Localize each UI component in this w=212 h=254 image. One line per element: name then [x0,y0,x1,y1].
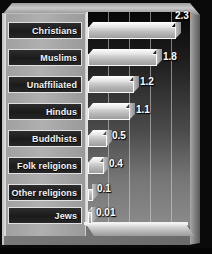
category-label-text: Christians [32,26,77,36]
value-label-jews: 0.01 [96,207,115,218]
category-label-text: Buddhists [32,134,77,144]
table-row: Buddhists 0.5 [0,130,212,154]
value-label-other-religions: 0.1 [97,183,111,194]
bar-hindus[interactable] [88,103,130,120]
value-label-unaffiliated: 1.2 [140,76,154,87]
category-label-text: Hindus [46,107,77,117]
bar-top-face [88,22,176,28]
bar-top-face [88,49,157,55]
bar-unaffiliated[interactable] [88,76,134,93]
table-row: Hindus 1.1 [0,103,212,127]
value-label-buddhists: 0.5 [112,130,126,141]
value-label-muslims: 1.8 [163,51,177,62]
category-label-text: Other religions [11,188,77,198]
bar-front-face [88,162,104,174]
bar-folk-religions[interactable] [88,157,104,174]
table-row: Muslims 1.8 [0,49,212,73]
category-label-text: Unaffiliated [27,80,77,90]
bar-front-face [88,212,92,224]
value-label-hindus: 1.1 [136,104,150,115]
bar-top-face [88,76,134,82]
value-label-christians: 2.3 [175,10,189,21]
bar-front-face [88,27,176,39]
bar-front-face [88,189,93,201]
category-label-buddhists[interactable]: Buddhists [8,130,82,147]
category-label-other-religions[interactable]: Other religions [8,184,82,201]
bar-front-face [88,108,130,120]
category-label-text: Folk religions [17,161,77,171]
bar-front-face [88,135,107,147]
bar-christians[interactable] [88,22,176,39]
bar-muslims[interactable] [88,49,157,66]
table-row: Other religions 0.1 [0,184,212,208]
category-label-christians[interactable]: Christians [8,22,82,39]
category-label-folk-religions[interactable]: Folk religions [8,157,82,174]
bar-other-religions[interactable] [88,184,93,201]
bar-top-face [88,103,130,109]
chart-container: Christians 2.3 Muslims 1.8 Unaffiliated [0,0,212,254]
category-label-text: Jews [55,211,77,221]
category-label-muslims[interactable]: Muslims [8,49,82,66]
table-row: Folk religions 0.4 [0,157,212,181]
category-label-text: Muslims [40,53,77,63]
bar-buddhists[interactable] [88,130,107,147]
value-label-folk-religions: 0.4 [109,158,123,169]
category-label-jews[interactable]: Jews [8,207,82,224]
bar-jews[interactable] [88,207,92,224]
table-row: Unaffiliated 1.2 [0,76,212,100]
category-label-hindus[interactable]: Hindus [8,103,82,120]
category-label-unaffiliated[interactable]: Unaffiliated [8,76,82,93]
bottom-edge [0,248,212,254]
bar-front-face [88,81,134,93]
table-row: Jews 0.01 [0,207,212,231]
table-row: Christians 2.3 [0,22,212,46]
bar-front-face [88,54,157,66]
